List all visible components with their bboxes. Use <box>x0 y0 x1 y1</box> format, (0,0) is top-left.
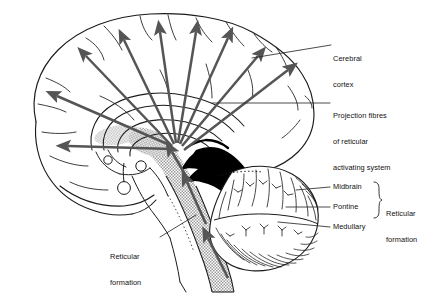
label-reticular-formation-left: Reticular formation <box>110 236 141 300</box>
label-midbrain: Midbrain <box>333 183 362 192</box>
label-medullary: Medullary <box>333 223 366 232</box>
pituitary <box>104 156 146 195</box>
label-cerebral-cortex-line1: Cerebral <box>333 55 362 64</box>
label-reticular-formation-left-line1: Reticular <box>110 253 141 262</box>
label-projection-fibres-line2: of reticular <box>333 138 391 147</box>
label-reticular-formation-right-line1: Reticular <box>386 210 417 219</box>
label-projection-fibres-line3: activating system <box>333 164 391 173</box>
label-reticular-formation-right-line2: formation <box>386 236 417 245</box>
label-projection-fibres-line1: Projection fibres <box>333 112 391 121</box>
leader-cerebral-cortex <box>252 45 331 58</box>
arrow-vertex-left <box>160 32 176 143</box>
label-cerebral-cortex-line2: cortex <box>333 81 362 90</box>
cerebellum <box>210 166 319 271</box>
reticular-activating-system-figure: Cerebral cortex Projection fibres of ret… <box>0 0 428 300</box>
label-pontine: Pontine <box>333 203 358 212</box>
label-projection-fibres: Projection fibres of reticular activatin… <box>333 95 391 190</box>
label-reticular-formation-right: Reticular formation <box>386 193 417 262</box>
label-reticular-formation-left-line2: formation <box>110 279 141 288</box>
